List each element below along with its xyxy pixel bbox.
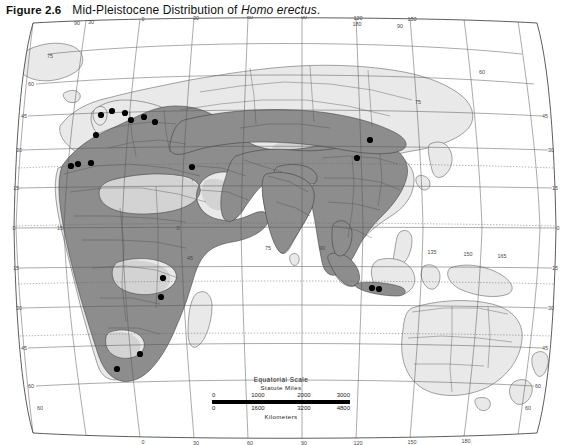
label-left-15n: 15 — [13, 185, 19, 191]
label-bottom-150e: 150 — [408, 439, 417, 445]
label-top-150e: 150 — [408, 16, 417, 22]
label-interior-165-as: 165 — [498, 253, 507, 259]
label-interior-60-bl: 60 — [37, 405, 43, 411]
label-top-90w: 90 — [74, 20, 80, 26]
label-interior-150-as: 150 — [464, 251, 473, 257]
label-interior-15-eq: 15 — [57, 225, 63, 231]
site-levant[interactable] — [189, 164, 195, 170]
label-top-60e: 60 — [247, 16, 253, 20]
site-central-europe-b[interactable] — [141, 114, 147, 120]
label-bottom-90e: 90 — [301, 440, 307, 445]
page-title: Mid-Pleistocene Distribution of Homo ere… — [72, 3, 320, 17]
label-left-30s: 30 — [16, 305, 22, 311]
site-britain[interactable] — [98, 112, 104, 118]
scale-miles-ticks: 0 1000 2000 3000 — [212, 392, 350, 399]
scale-km-0: 0 — [212, 405, 215, 411]
scale-km-ticks: 0 1600 3200 4800 — [212, 405, 350, 412]
label-interior-75n-left: 75 — [47, 53, 53, 59]
figure-number: Figure 2.6 — [6, 4, 61, 16]
label-interior-90-topright: 90 — [397, 23, 403, 29]
site-north-europe-a[interactable] — [109, 108, 115, 114]
label-interior-90-as: 90 — [319, 245, 325, 251]
label-interior-0-eq: 0 — [177, 225, 180, 231]
scale-km-1600: 1600 — [251, 405, 264, 411]
label-right-45s: 45 — [542, 345, 548, 351]
label-top-30w: 30 — [88, 19, 94, 25]
site-northwest-africa-a[interactable] — [68, 163, 74, 169]
label-left-15s: 15 — [13, 265, 19, 271]
label-bottom-180: 180 — [462, 438, 471, 444]
scale-miles-3000: 3000 — [337, 392, 350, 398]
scale-title: Equatorial Scale — [205, 376, 357, 384]
label-left-60s: 60 — [28, 383, 34, 389]
label-interior-135-as: 135 — [428, 249, 437, 255]
scale-footer: Kilometers — [205, 413, 357, 421]
label-bottom-120e: 120 — [354, 440, 363, 445]
label-left-45n: 45 — [21, 113, 27, 119]
label-left-0: 0 — [13, 225, 16, 231]
label-right-15n: 15 — [552, 185, 558, 191]
label-right-30n: 30 — [548, 147, 554, 153]
scale-miles-2000: 2000 — [297, 392, 310, 398]
site-south-africa-a[interactable] — [137, 351, 143, 357]
label-right-15s: 15 — [552, 265, 558, 271]
site-north-europe-b[interactable] — [122, 110, 128, 116]
site-java-b[interactable] — [376, 286, 382, 292]
label-left-45s: 45 — [21, 345, 27, 351]
scale-miles-1000: 1000 — [251, 392, 264, 398]
scale-km-3200: 3200 — [297, 405, 310, 411]
label-left-60n: 60 — [28, 81, 34, 87]
site-java-a[interactable] — [369, 285, 375, 291]
site-iberia[interactable] — [93, 132, 99, 138]
site-central-europe-c[interactable] — [152, 119, 158, 125]
label-interior-75n-right: 75 — [415, 99, 421, 105]
site-east-africa-b[interactable] — [158, 294, 164, 300]
label-interior-60-right: 60 — [479, 69, 485, 75]
label-top-30e: 30 — [193, 16, 199, 21]
label-top-0: 0 — [142, 16, 145, 22]
map-scale-bar: Equatorial Scale Statute Miles 0 1000 20… — [205, 376, 357, 422]
label-bottom-0: 0 — [142, 439, 145, 445]
label-right-45n: 45 — [542, 113, 548, 119]
label-bottom-30e: 30 — [193, 440, 199, 445]
site-east-africa-a[interactable] — [160, 275, 166, 281]
scale-subtitle: Statute Miles — [205, 384, 357, 392]
figure-title-suffix: . — [317, 3, 320, 17]
scale-bar-graphic — [212, 400, 350, 404]
site-northwest-africa-c[interactable] — [88, 160, 94, 166]
label-interior-75-as: 75 — [265, 245, 271, 251]
site-china-a[interactable] — [367, 137, 373, 143]
site-central-europe-a[interactable] — [128, 117, 134, 123]
label-right-0: 0 — [557, 225, 560, 231]
label-left-30n: 30 — [16, 147, 22, 153]
site-south-africa-b[interactable] — [114, 366, 120, 372]
site-northwest-africa-b[interactable] — [75, 161, 81, 167]
label-bottom-60e: 60 — [247, 440, 253, 445]
label-right-60s: 60 — [535, 383, 541, 389]
label-interior-45-af: 45 — [187, 255, 193, 261]
figure-title-prefix: Mid-Pleistocene Distribution of — [72, 3, 241, 17]
label-interior-60-br: 60 — [525, 405, 531, 411]
figure-title-species: Homo erectus — [241, 3, 317, 17]
label-right-30s: 30 — [548, 305, 554, 311]
site-china-b[interactable] — [354, 155, 360, 161]
scale-km-4800: 4800 — [337, 405, 350, 411]
label-top-90e: 90 — [301, 16, 307, 20]
label-interior-180-top: 180 — [353, 21, 362, 27]
scale-miles-0: 0 — [212, 392, 215, 398]
figure-root: Figure 2.6 Mid-Pleistocene Distribution … — [0, 0, 569, 445]
